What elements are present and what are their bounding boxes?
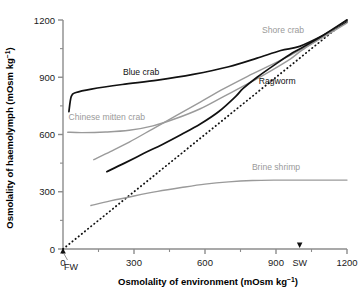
x-axis-title-text: Osmolality of environment (mOsm kg (118, 276, 287, 287)
sw-marker-label: SW (292, 258, 307, 268)
x-axis-title: Osmolality of environment (mOsm kg−1) (118, 276, 298, 288)
y-axis-title-tail: ) (4, 47, 15, 50)
svg-text:Osmolality of environment (mOs: Osmolality of environment (mOsm kg−1) (118, 276, 298, 288)
x-axis-title-tail: ) (295, 276, 298, 287)
x-tick-label: 1200 (336, 257, 357, 268)
y-tick-label: 300 (39, 186, 55, 197)
sw-arrow-icon (297, 243, 303, 248)
y-axis-title: Osmolality of haemolymph (mOsm kg−1) (4, 47, 16, 228)
svg-text:Osmolality of haemolymph (mOsm: Osmolality of haemolymph (mOsm kg−1) (4, 47, 16, 228)
fw-marker-label: FW (64, 262, 78, 272)
y-tick-label: 0 (50, 244, 55, 255)
axes: 0300600900120003006009001200 (34, 15, 358, 269)
series-label-brine-shrimp: Brine shrimp (252, 162, 300, 172)
series-line-isosmotic-line (63, 20, 347, 249)
series-label-ragworm: Ragworm (259, 76, 296, 86)
osmoregulation-line-chart: 0300600900120003006009001200 Blue crabCh… (0, 0, 363, 295)
y-tick-label: 900 (39, 72, 55, 83)
y-tick-label: 1200 (34, 15, 55, 26)
series-label-blue-crab: Blue crab (123, 67, 160, 77)
series-labels: Blue crabChinese mitten crabShore crabRa… (69, 25, 305, 172)
x-tick-label: 300 (126, 257, 142, 268)
series-label-shore-crab: Shore crab (262, 25, 304, 35)
series-lines (63, 20, 347, 249)
y-axis-title-text: Osmolality of haemolymph (mOsm kg (4, 58, 15, 229)
x-tick-label: 900 (268, 257, 284, 268)
chart-figure: 0300600900120003006009001200 Blue crabCh… (0, 0, 363, 295)
series-line-brine-shrimp (91, 180, 347, 205)
series-line-ragworm (107, 20, 347, 172)
x-tick-label: 600 (197, 257, 213, 268)
series-label-chinese-mitten-crab: Chinese mitten crab (69, 112, 146, 122)
y-tick-label: 600 (39, 129, 55, 140)
